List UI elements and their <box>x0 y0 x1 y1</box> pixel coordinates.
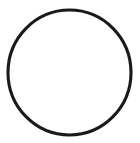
canvas-background <box>0 0 140 143</box>
circle-outline-graphic <box>0 0 140 143</box>
image-canvas <box>0 0 140 143</box>
